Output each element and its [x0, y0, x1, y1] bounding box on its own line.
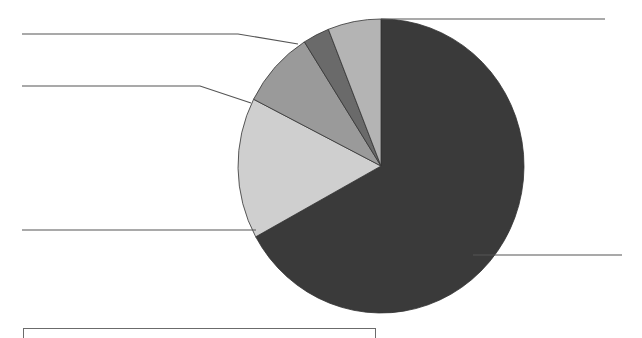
leader-line-4 — [22, 34, 298, 44]
legend-box — [23, 328, 376, 338]
pie-slices — [238, 19, 524, 313]
leader-line-3 — [22, 86, 251, 103]
